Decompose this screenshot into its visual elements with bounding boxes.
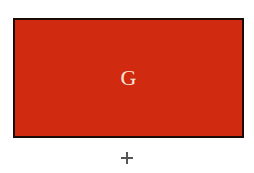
- plus-icon: [121, 152, 133, 164]
- red-card[interactable]: G: [13, 18, 244, 138]
- card-letter: G: [121, 67, 137, 89]
